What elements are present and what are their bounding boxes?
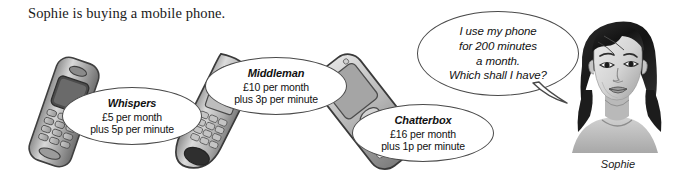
tariff-name: Whispers — [108, 97, 157, 110]
portrait-caption: Sophie — [562, 158, 674, 170]
tariff-callout-whispers: Whispers £5 per month plus 5p per minute — [62, 87, 202, 145]
callout-text: Middleman £10 per month plus 3p per minu… — [205, 57, 347, 115]
worksheet-illustration: Sophie is buying a mobile phone. — [0, 0, 676, 183]
speech-bubble-sophie: I use my phone for 200 minutes a month. … — [417, 11, 579, 96]
tariff-name: Chatterbox — [394, 114, 451, 127]
portrait-sophie — [562, 8, 674, 153]
tariff-callout-chatterbox: Chatterbox £16 per month plus 1p per min… — [352, 104, 494, 162]
tariff-per-minute: plus 3p per minute — [234, 93, 318, 105]
speech-line-3: a month. — [476, 54, 520, 69]
speech-line-1: I use my phone — [459, 24, 536, 39]
tariff-per-minute: plus 1p per minute — [381, 140, 465, 152]
tariff-monthly: £16 per month — [390, 128, 456, 140]
tariff-per-minute: plus 5p per minute — [90, 123, 174, 135]
tariff-monthly: £5 per month — [102, 111, 162, 123]
page-title: Sophie is buying a mobile phone. — [28, 5, 225, 22]
tariff-callout-middleman: Middleman £10 per month plus 3p per minu… — [205, 57, 347, 115]
speech-line-2: for 200 minutes — [459, 39, 537, 54]
callout-text: Whispers £5 per month plus 5p per minute — [62, 87, 202, 145]
tariff-monthly: £10 per month — [243, 81, 309, 93]
callout-text: Chatterbox £16 per month plus 1p per min… — [352, 104, 494, 162]
tariff-name: Middleman — [248, 67, 305, 80]
